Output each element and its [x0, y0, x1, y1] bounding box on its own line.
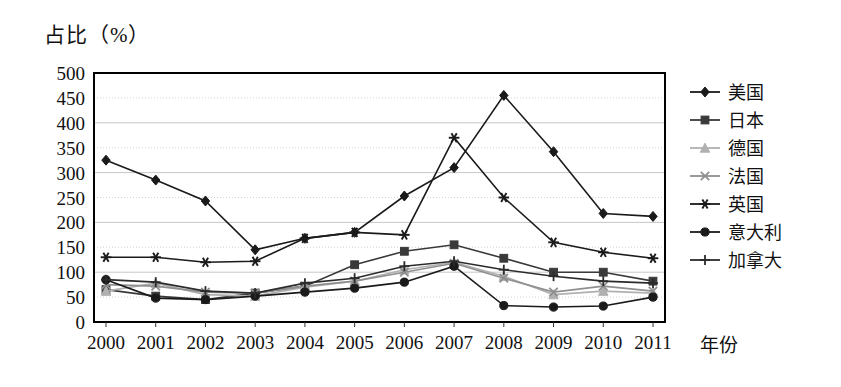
series-circle: [102, 262, 657, 311]
x-axis-tick-label: 2009: [535, 332, 573, 353]
plus-marker: [499, 265, 509, 275]
square-marker: [450, 241, 458, 249]
diamond-marker: [701, 87, 709, 97]
circle-marker: [500, 301, 508, 309]
legend-item-label: 美国: [728, 83, 764, 103]
square-marker: [351, 261, 359, 269]
plus-marker: [700, 255, 710, 265]
asterisk-marker: [200, 258, 211, 267]
y-axis-tick-label: 150: [57, 237, 86, 258]
line-chart-svg: 5004504003503002502001501005002000200120…: [0, 0, 841, 387]
circle-marker: [201, 295, 209, 303]
series-asterisk: [101, 133, 659, 267]
legend-item-label: 德国: [728, 139, 764, 159]
asterisk-marker: [250, 257, 261, 266]
asterisk-marker: [150, 253, 161, 262]
x-axis-tick-label: 2000: [87, 332, 125, 353]
square-marker: [701, 116, 709, 124]
x-axis-tick-label: 2001: [137, 332, 175, 353]
legend-item[interactable]: 德国: [690, 139, 764, 159]
series-line: [106, 138, 653, 262]
legend-item[interactable]: 日本: [690, 111, 764, 131]
legend-item[interactable]: 意大利: [690, 223, 782, 243]
y-axis-tick-label: 100: [57, 262, 86, 283]
square-marker: [599, 268, 607, 276]
diamond-marker: [152, 175, 160, 185]
y-axis-tick-label: 350: [57, 138, 86, 159]
x-axis-tick-label: 2010: [584, 332, 622, 353]
legend-item-label: 加拿大: [728, 250, 782, 271]
x-axis-tick-label: 2006: [385, 332, 423, 353]
circle-marker: [400, 278, 408, 286]
y-axis-tick-label: 450: [57, 88, 86, 109]
legend-item-label: 日本: [728, 111, 764, 131]
circle-marker: [351, 284, 359, 292]
circle-marker: [649, 293, 657, 301]
plus-marker: [598, 276, 608, 286]
series-line: [106, 262, 653, 296]
y-axis-tick-label: 250: [57, 188, 86, 209]
diamond-marker: [102, 155, 110, 165]
circle-marker: [701, 228, 709, 236]
y-axis-tick-label: 300: [57, 163, 86, 184]
x-axis-tick-label: 2004: [286, 332, 325, 353]
y-axis-tick-label: 400: [57, 113, 86, 134]
y-axis-tick-label: 50: [66, 287, 85, 308]
square-marker: [500, 254, 508, 262]
legend-item[interactable]: 美国: [690, 83, 764, 103]
circle-marker: [152, 294, 160, 302]
circle-marker: [549, 303, 557, 311]
asterisk-marker: [598, 248, 609, 257]
x-axis-tick-label: 2003: [236, 332, 274, 353]
legend-item-label: 法国: [728, 167, 764, 187]
asterisk-marker: [648, 254, 659, 263]
circle-marker: [301, 288, 309, 296]
legend-item[interactable]: 加拿大: [690, 250, 782, 271]
y-axis-tick-label: 0: [76, 312, 86, 333]
square-marker: [400, 247, 408, 255]
asterisk-marker: [700, 199, 711, 208]
circle-marker: [599, 302, 607, 310]
y-axis-tick-label: 500: [57, 63, 86, 84]
legend-item[interactable]: 英国: [690, 195, 764, 215]
legend-item[interactable]: 法国: [690, 167, 764, 187]
diamond-marker: [649, 211, 657, 221]
x-axis-tick-label: 2008: [485, 332, 523, 353]
legend-item-label: 英国: [728, 195, 764, 215]
asterisk-marker: [101, 253, 112, 262]
x-axis-tick-label: 2011: [634, 332, 671, 353]
asterisk-marker: [399, 230, 410, 239]
legend-item-label: 意大利: [728, 223, 782, 243]
diamond-marker: [400, 191, 408, 201]
x-axis-tick-label: 2002: [186, 332, 224, 353]
x-axis-tick-label: 2005: [336, 332, 374, 353]
x-axis-tick-label: 2007: [435, 332, 473, 353]
y-axis-tick-label: 200: [57, 212, 86, 233]
chart-container: 占比（%） 年份 5004504003503002502001501005002…: [0, 0, 841, 387]
plus-marker: [101, 275, 111, 285]
legend: 美国日本德国法国英国意大利加拿大: [690, 83, 782, 271]
